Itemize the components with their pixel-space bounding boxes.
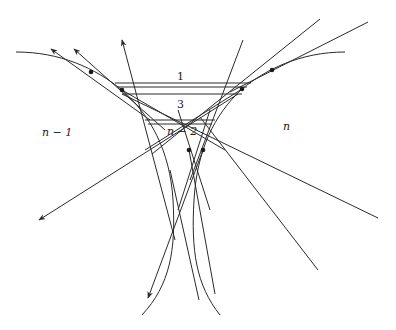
point: [201, 148, 206, 153]
arrow-line: [74, 49, 165, 130]
arrow-line: [148, 150, 203, 298]
diagram-canvas: [0, 0, 396, 330]
label-region-n: n: [283, 121, 290, 132]
point: [89, 70, 94, 75]
point: [187, 148, 192, 153]
arrow-line: [39, 94, 238, 220]
point: [240, 87, 245, 92]
diagram-lines: [16, 19, 378, 315]
label-region-n-1: n − 1: [42, 127, 72, 138]
tangent-line: [122, 94, 378, 218]
label-band-n-2: n − 2: [167, 126, 197, 137]
label-band-1: 1: [177, 71, 184, 82]
arrow-line: [122, 40, 175, 240]
tangent-line: [230, 22, 368, 92]
right-curve: [193, 52, 345, 315]
point: [120, 88, 125, 93]
point: [270, 68, 275, 73]
tangent-line: [200, 117, 318, 270]
tangent-line: [190, 40, 243, 180]
left-curve: [16, 52, 174, 315]
arrow-line: [51, 49, 150, 120]
label-band-3: 3: [177, 99, 184, 110]
